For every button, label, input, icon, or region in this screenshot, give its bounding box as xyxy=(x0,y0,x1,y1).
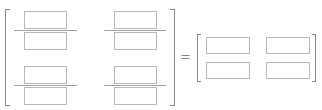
denominator-input-r1c1[interactable] xyxy=(24,32,67,50)
numerator-input-r2c1[interactable] xyxy=(24,66,67,84)
result-input-r1c2[interactable] xyxy=(266,37,310,54)
numerator-input-r2c2[interactable] xyxy=(114,66,157,84)
result-matrix-close-bracket xyxy=(312,34,316,82)
denominator-input-r2c1[interactable] xyxy=(24,87,67,105)
fraction-bar-r2c2 xyxy=(104,85,166,86)
denominator-input-r2c2[interactable] xyxy=(114,87,157,105)
result-input-r2c1[interactable] xyxy=(206,62,250,79)
result-matrix-open-bracket xyxy=(197,34,201,82)
left-matrix-close-bracket xyxy=(170,9,175,106)
denominator-input-r1c2[interactable] xyxy=(114,32,157,50)
left-matrix-open-bracket xyxy=(5,9,10,106)
result-input-r1c1[interactable] xyxy=(206,37,250,54)
numerator-input-r1c1[interactable] xyxy=(24,11,67,29)
fraction-bar-r2c1 xyxy=(14,85,77,86)
result-input-r2c2[interactable] xyxy=(266,62,310,79)
fraction-bar-r1c2 xyxy=(104,30,166,31)
equals-sign: = xyxy=(180,50,191,63)
numerator-input-r1c2[interactable] xyxy=(114,11,157,29)
fraction-bar-r1c1 xyxy=(14,30,77,31)
